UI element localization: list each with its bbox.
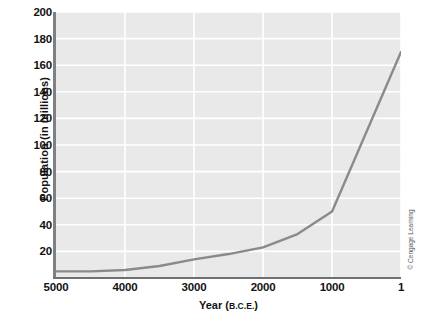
x-axis-tick: 2000 [251, 281, 276, 293]
copyright-credit: © Cengage Learning [407, 166, 414, 270]
population-line [56, 52, 401, 271]
y-axis-tick: 20 [0, 245, 52, 257]
y-axis-spine [53, 12, 56, 278]
plot-area [56, 12, 401, 278]
y-axis-tick: 200 [0, 6, 52, 18]
y-axis-tick: 120 [0, 112, 52, 124]
y-axis-tick: 60 [0, 192, 52, 204]
y-axis-tick: 160 [0, 59, 52, 71]
data-line-group [56, 52, 401, 271]
x-axis-label: Year (B.C.E.) [56, 299, 401, 311]
y-axis-tick: 40 [0, 219, 52, 231]
plot-svg [56, 12, 401, 278]
x-axis-tick: 3000 [182, 281, 207, 293]
x-axis-tick: 1 [398, 281, 404, 293]
x-axis-spine [53, 277, 401, 279]
population-growth-chart: Population (in millions) 204060801001201… [0, 0, 424, 325]
x-axis-tick-labels: 500040003000200010001 [0, 281, 424, 301]
y-axis-tick: 80 [0, 166, 52, 178]
x-axis-tick: 5000 [44, 281, 69, 293]
gridlines [56, 12, 401, 278]
x-axis-label-era: B.C.E. [229, 301, 254, 311]
x-axis-tick: 4000 [113, 281, 138, 293]
x-axis-label-main: Year ( [199, 299, 229, 311]
x-axis-tick: 1000 [320, 281, 345, 293]
y-axis-tick: 140 [0, 86, 52, 98]
x-axis-label-tail: ) [254, 299, 258, 311]
y-axis-tick: 180 [0, 33, 52, 45]
y-axis-tick: 100 [0, 139, 52, 151]
y-axis-tick-labels: 20406080100120140160180200 [0, 0, 52, 325]
